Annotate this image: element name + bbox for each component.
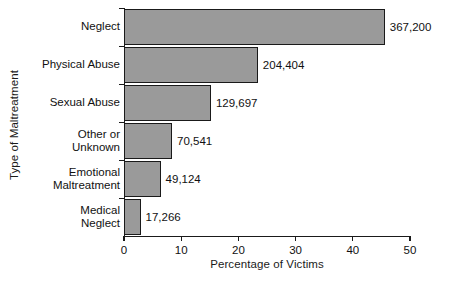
category-label-sexual-abuse: Sexual Abuse	[28, 96, 120, 110]
x-tick	[123, 236, 124, 241]
bar	[124, 161, 161, 197]
x-tick-label: 40	[333, 244, 373, 256]
bar	[124, 199, 141, 235]
x-axis-line	[123, 236, 410, 237]
x-axis-title: Percentage of Victims	[124, 258, 410, 270]
x-tick-label: 10	[161, 244, 201, 256]
bar-value-label: 367,200	[390, 21, 432, 33]
bar	[124, 85, 211, 121]
y-axis-title: Type of Maltreatment	[8, 5, 24, 245]
bar-value-label: 70,541	[177, 135, 212, 147]
x-tick-label: 50	[390, 244, 430, 256]
category-label-group: Neglect Physical Abuse Sexual Abuse Othe…	[28, 8, 120, 236]
plot-area: 367,200204,404129,69770,54149,12417,266 …	[124, 8, 410, 236]
bar-value-label: 204,404	[263, 59, 305, 71]
category-label-medical-neglect: MedicalNeglect	[28, 204, 120, 231]
x-tick	[409, 236, 410, 241]
x-tick	[352, 236, 353, 241]
category-label-neglect: Neglect	[28, 20, 120, 34]
x-tick	[295, 236, 296, 241]
x-tick-label: 0	[104, 244, 144, 256]
bar	[124, 123, 172, 159]
x-tick	[181, 236, 182, 241]
bar-value-label: 129,697	[216, 97, 258, 109]
bar-value-label: 49,124	[166, 173, 201, 185]
category-label-other-or-unknown: Other orUnknown	[28, 128, 120, 155]
x-tick-label: 20	[218, 244, 258, 256]
bar-chart: Type of Maltreatment Neglect Physical Ab…	[0, 0, 457, 292]
x-tick-label: 30	[276, 244, 316, 256]
x-tick	[238, 236, 239, 241]
category-label-emotional-maltreatment: EmotionalMaltreatment	[28, 166, 120, 193]
bar	[124, 9, 385, 45]
bar	[124, 47, 258, 83]
bar-value-label: 17,266	[146, 211, 181, 223]
category-label-physical-abuse: Physical Abuse	[28, 58, 120, 72]
